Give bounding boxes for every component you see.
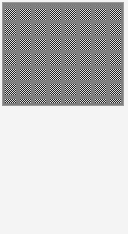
pattern-swatch-frame[interactable]	[2, 2, 124, 106]
checkerboard-pattern-preview	[5, 5, 121, 103]
